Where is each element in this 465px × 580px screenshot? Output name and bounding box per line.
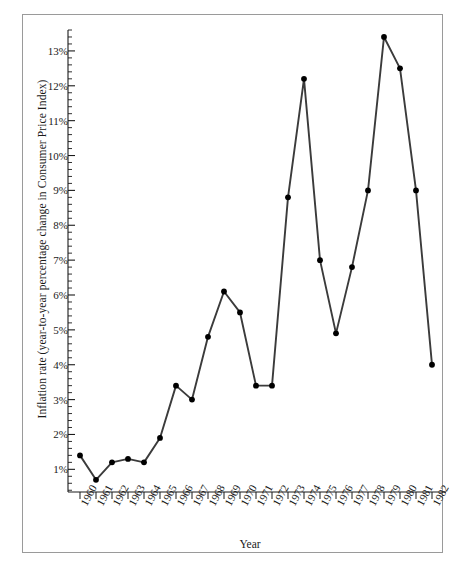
data-point	[317, 257, 323, 263]
data-point	[349, 264, 355, 270]
data-point	[205, 334, 211, 340]
data-point	[253, 383, 259, 389]
plot-area	[0, 0, 465, 580]
data-point	[333, 330, 339, 336]
inflation-series-line	[80, 37, 432, 480]
data-point	[189, 397, 195, 403]
data-point	[365, 187, 371, 193]
data-point	[157, 435, 163, 441]
data-point	[125, 456, 131, 462]
data-point	[413, 187, 419, 193]
axis-lines	[68, 30, 446, 492]
x-major-ticks	[80, 492, 432, 499]
data-point	[77, 452, 83, 458]
data-point	[429, 362, 435, 368]
data-point	[221, 289, 227, 295]
data-point	[237, 310, 243, 316]
data-point	[285, 194, 291, 200]
data-point	[141, 459, 147, 465]
data-point	[109, 459, 115, 465]
inflation-series-markers	[77, 34, 435, 483]
data-point	[269, 383, 275, 389]
inflation-line-chart-figure: Inflation rate (year-to-year percentage …	[0, 0, 465, 580]
x-axis-title: Year	[70, 538, 430, 550]
data-point	[93, 477, 99, 483]
data-point	[301, 76, 307, 82]
data-point	[397, 65, 403, 71]
data-point	[173, 383, 179, 389]
data-point	[381, 34, 387, 40]
